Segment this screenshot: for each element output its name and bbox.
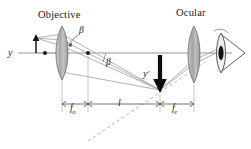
ray-bundle-principal (36, 34, 160, 90)
focal-objective-label: fo (70, 98, 76, 114)
angle-beta-axis-label: β (106, 58, 111, 68)
object-height-label: y (8, 48, 12, 58)
angle-beta-objective-marker (68, 35, 78, 47)
tube-length-label: l (118, 98, 121, 108)
angle-beta-objective-label: β (79, 26, 84, 36)
figure-canvas: Objective Ocular y β β y′ fo l fe (0, 0, 251, 149)
objective-lens (56, 26, 68, 80)
focal-point-dot-left (43, 51, 47, 55)
focal-ocular-subscript: e (174, 108, 177, 115)
focal-objective-subscript: o (72, 108, 75, 115)
object-arrow-up (33, 34, 40, 53)
focal-point-dot-right (86, 51, 90, 55)
objective-title-label: Objective (38, 10, 81, 21)
ocular-lens (188, 26, 200, 83)
image-height-label: y′ (143, 64, 149, 80)
focal-ocular-label: fe (172, 98, 178, 114)
ocular-title-label: Ocular (176, 8, 206, 19)
image-height-prime-symbol: ′ (147, 69, 149, 79)
optics-ray-diagram (0, 0, 251, 149)
dimension-line-l (88, 101, 160, 107)
eye-symbol (214, 29, 245, 73)
